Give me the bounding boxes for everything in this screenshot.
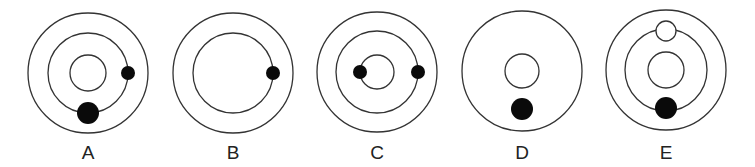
small-filled-dot (411, 65, 425, 79)
figure-label: E (660, 142, 673, 163)
small-filled-dot (353, 65, 367, 79)
inner-ring (70, 55, 106, 91)
large-filled-dot (77, 102, 99, 124)
hollow-dot (656, 21, 676, 41)
figure-label: D (515, 142, 529, 163)
figure-label: B (227, 142, 240, 163)
figure-label: A (82, 142, 95, 163)
large-filled-dot (511, 98, 533, 120)
small-filled-dot (121, 66, 135, 80)
large-filled-dot (655, 97, 677, 119)
figure-set: A B C D E (0, 0, 755, 167)
figure-d: D (462, 11, 582, 163)
figure-c: C (317, 12, 437, 163)
figure-b: B (173, 13, 293, 163)
figure-e: E (606, 10, 726, 163)
middle-ring (48, 33, 128, 113)
small-filled-dot (266, 66, 280, 80)
figure-label: C (370, 142, 384, 163)
middle-ring (193, 33, 273, 113)
inner-ring (648, 52, 684, 88)
inner-ring (505, 54, 539, 88)
figure-a: A (28, 13, 148, 163)
middle-ring (336, 31, 418, 113)
